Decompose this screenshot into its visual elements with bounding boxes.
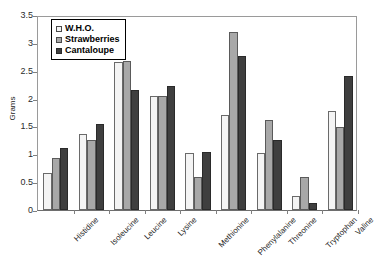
y-tick-label: 0.5: [7, 178, 33, 187]
bar: [221, 115, 229, 210]
legend-swatch-icon: [56, 26, 62, 32]
bar: [257, 153, 265, 210]
y-tick-label: 2.5: [7, 67, 33, 76]
legend-item: W.H.O.: [56, 23, 120, 34]
x-axis-category-label: Histidine: [73, 216, 100, 243]
x-tick-mark: [358, 210, 359, 214]
bar: [344, 76, 352, 210]
y-tick-mark: [33, 211, 37, 212]
legend-swatch-icon: [56, 48, 62, 54]
bar: [96, 124, 104, 210]
bar: [300, 177, 308, 210]
x-tick-mark: [287, 210, 288, 214]
y-tick-label: 3.5: [7, 11, 33, 20]
x-axis-category-label: Methionine: [217, 216, 250, 249]
x-tick-mark: [109, 210, 110, 214]
x-axis-category-label: Isoleucine: [110, 216, 141, 247]
bar-group: [221, 17, 246, 210]
bar: [60, 148, 68, 210]
y-tick-label: 2: [7, 95, 33, 104]
bar: [79, 134, 87, 210]
legend-item: Cantaloupe: [56, 45, 120, 56]
x-axis-category-label: Lysine: [177, 216, 199, 238]
bar: [194, 177, 202, 210]
bar: [229, 32, 237, 210]
bar: [238, 56, 246, 210]
x-axis-category-label: Valine: [355, 216, 376, 237]
legend-swatch-icon: [56, 37, 62, 43]
y-tick-label: 1: [7, 150, 33, 159]
bar: [114, 62, 122, 210]
bar: [158, 96, 166, 210]
x-tick-mark: [145, 210, 146, 214]
bar-group: [257, 17, 282, 210]
bar: [185, 153, 193, 210]
y-tick-label: 3: [7, 39, 33, 48]
y-tick-label: 0: [7, 206, 33, 215]
bar: [328, 111, 336, 210]
legend-label: Cantaloupe: [65, 46, 114, 55]
y-axis-ticks: 00.511.522.533.5: [0, 0, 33, 270]
bar: [43, 173, 51, 210]
bar: [87, 140, 95, 210]
bar: [202, 152, 210, 210]
legend-item: Strawberries: [56, 34, 120, 45]
bar: [292, 196, 300, 210]
bar: [123, 61, 131, 210]
bar: [273, 140, 281, 210]
bar: [336, 127, 344, 210]
x-tick-mark: [180, 210, 181, 214]
x-tick-mark: [251, 210, 252, 214]
bar: [52, 158, 60, 210]
legend-label: W.H.O.: [65, 24, 94, 33]
bar-group: [150, 17, 175, 210]
y-tick-label: 1.5: [7, 122, 33, 131]
bar-group: [185, 17, 210, 210]
bar: [309, 203, 317, 210]
x-axis-category-label: Leucine: [143, 216, 168, 241]
x-axis-category-label: Tryptophan: [324, 216, 358, 250]
legend-label: Strawberries: [65, 35, 120, 44]
bar-group: [328, 17, 353, 210]
bar: [150, 96, 158, 210]
legend: W.H.O.StrawberriesCantaloupe: [51, 19, 126, 60]
bar-group: [292, 17, 317, 210]
x-tick-mark: [322, 210, 323, 214]
bar: [131, 90, 139, 210]
x-tick-mark: [216, 210, 217, 214]
x-tick-mark: [74, 210, 75, 214]
bar: [265, 120, 273, 210]
bar: [167, 86, 175, 210]
